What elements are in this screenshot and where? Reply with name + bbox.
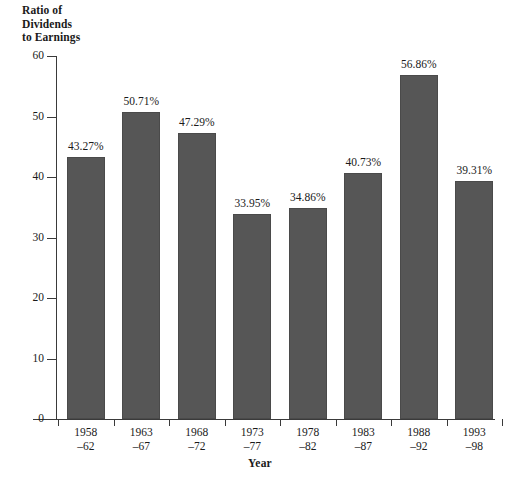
bar [178, 133, 216, 419]
x-axis-title-text: Year [248, 457, 272, 469]
bar-chart: Ratio of Dividends to Earnings 010203040… [0, 0, 512, 480]
bar-value-label: 56.86% [381, 58, 457, 70]
bar [344, 173, 382, 419]
bar [400, 75, 438, 419]
bar-value-label: 43.27% [48, 140, 124, 152]
bar [455, 181, 493, 419]
bar-value-label: 40.73% [326, 156, 402, 168]
bar-value-label: 50.71% [104, 95, 180, 107]
bar [67, 157, 105, 419]
bar-value-label: 39.31% [437, 164, 512, 176]
x-axis-title: Year [0, 457, 512, 469]
bar-value-label: 34.86% [270, 191, 346, 203]
bar [122, 112, 160, 419]
bars-layer: 43.27%50.71%47.29%33.95%34.86%40.73%56.8… [0, 0, 512, 480]
x-category-label: 1993–98 [441, 425, 509, 453]
x-category-label-line-1: 1993 [441, 425, 509, 439]
bar [233, 214, 271, 419]
bar-value-label: 47.29% [159, 116, 235, 128]
bar [289, 208, 327, 419]
x-category-label-line-2: –98 [441, 439, 509, 453]
